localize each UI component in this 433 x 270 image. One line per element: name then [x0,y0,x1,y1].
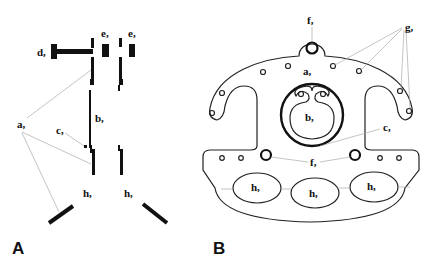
panel-letter-a: A [12,239,24,258]
right-post-top [119,38,122,47]
b-inner-hole-right [321,92,326,97]
g-hole [286,64,291,69]
leader-c [65,133,84,146]
leader-a-1 [27,70,91,118]
g-hole [331,64,336,69]
label-f-mid: f, [310,156,317,168]
label-a: a, [17,118,26,130]
leader-c [320,129,380,146]
leader-a-3 [22,133,59,212]
label-b: b, [305,111,314,123]
left-lower-tab [90,145,92,153]
leader-g-3 [401,30,404,88]
c-pin [84,145,87,148]
g-hole [261,70,266,75]
label-g: g, [405,21,414,33]
left-post-foot [90,79,94,85]
leader-f-right [320,157,350,162]
hole-lower [239,156,244,161]
right-lower-tab [118,145,120,151]
label-c: c, [56,124,64,136]
label-e-2: e, [128,27,136,39]
hole-lower [397,156,402,161]
f-eyelet-left [261,150,271,160]
label-h-3: h, [367,180,376,192]
e-block-1 [102,44,109,57]
leader-f-left [271,157,308,162]
label-h-1: h, [251,181,260,193]
label-a: a, [303,65,312,77]
right-post-tip [118,85,120,91]
f-eyelet-right [350,150,360,160]
leader-g-1 [335,28,402,65]
label-b: b, [95,112,104,124]
hole-lower [378,156,383,161]
g-hole [398,89,403,94]
b-inner-hole-left [299,92,304,97]
label-c: c, [383,121,391,133]
d-bar [57,49,93,54]
panel-letter-b: B [213,239,225,258]
label-h-2: h, [309,187,318,199]
g-hole [220,91,225,96]
g-hole [357,69,362,74]
g-hole [407,109,412,114]
label-d: d, [37,46,46,58]
right-post-foot [119,79,123,85]
right-lower-post [120,149,123,175]
hole-lower [220,156,225,161]
b-rod [89,90,91,148]
label-h-2: h, [124,187,133,199]
panel-b-top-view: f, g, a, b, c, f, h, h, h, B [203,14,419,258]
h-leg-left [49,206,73,223]
diagram-canvas: d, e, e, a, b, c, h, h, A [0,0,433,270]
leader-g-2 [361,29,402,70]
h-leg-right [143,204,167,223]
d-end-block [51,44,57,59]
left-lower-post [92,149,95,175]
panel-a-side-view: d, e, e, a, b, c, h, h, A [12,27,167,258]
label-f-top: f, [307,14,314,26]
leader-a-2 [22,132,91,164]
label-h-1: h, [83,187,92,199]
left-post-top [91,38,94,48]
e-block-2 [129,44,135,57]
label-e-1: e, [101,27,109,39]
